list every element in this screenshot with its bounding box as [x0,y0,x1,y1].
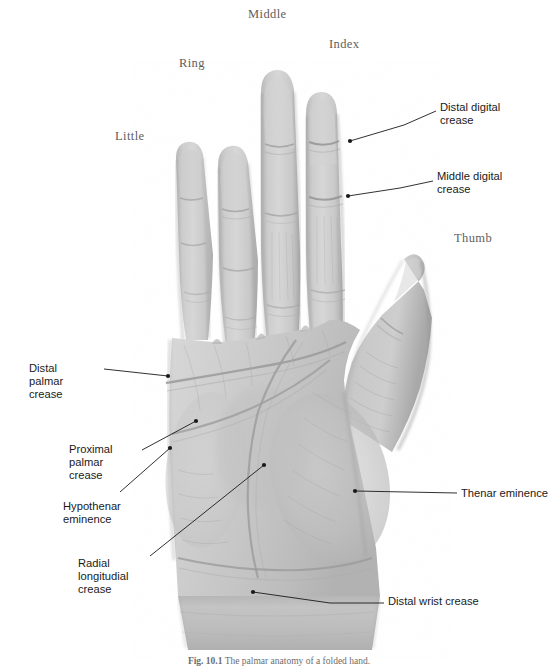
figure-caption: Fig. 10.1 The palmar anatomy of a folded… [0,655,558,667]
figure-caption-text: The palmar anatomy of a folded hand. [225,656,370,666]
finger-label-thumb: Thumb [454,232,492,245]
annotation-proximal-palmar-crease: Proximal palmar crease [69,443,141,483]
annotation-distal-palmar-crease: Distal palmar crease [29,362,99,402]
figure-caption-number: Fig. 10.1 [188,656,223,666]
finger-label-middle: Middle [248,8,287,21]
annotation-middle-digital-crease: Middle digital crease [437,170,502,196]
anatomy-figure: Middle Index Ring Little Thumb Distal di… [0,0,558,672]
finger-label-index: Index [329,38,359,51]
finger-label-ring: Ring [179,57,205,70]
annotation-radial-longitudinal-crease: Radial longitudial crease [78,557,156,597]
finger-label-little: Little [115,130,144,143]
annotation-distal-wrist-crease: Distal wrist crease [388,595,479,608]
annotation-hypothenar-eminence: Hypothenar eminence [63,500,143,526]
annotation-distal-digital-crease: Distal digital crease [440,101,500,127]
annotation-thenar-eminence: Thenar eminence [461,487,548,500]
